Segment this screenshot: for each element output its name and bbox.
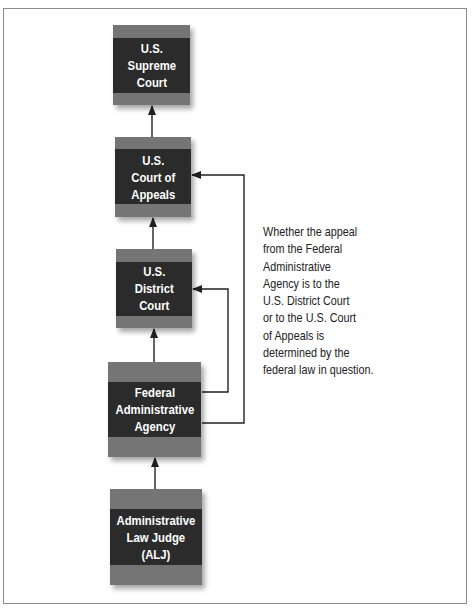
box-supreme-court: U.S. Supreme Court	[113, 25, 190, 105]
box-administrative-law-judge: Administrative Law Judge (ALJ)	[110, 489, 202, 585]
connector-lines	[0, 0, 472, 610]
box-label: Federal Administrative Agency	[108, 384, 202, 435]
box-court-of-appeals: U.S. Court of Appeals	[115, 137, 191, 217]
box-label: U.S. Court of Appeals	[127, 152, 180, 203]
box-label: U.S. Supreme Court	[123, 40, 181, 91]
explanatory-note: Whether the appeal from the Federal Admi…	[263, 223, 401, 379]
box-district-court: U.S. District Court	[116, 249, 192, 328]
box-label: U.S. District Court	[131, 263, 178, 314]
box-federal-administrative-agency: Federal Administrative Agency	[108, 362, 201, 457]
box-label: Administrative Law Judge (ALJ)	[109, 512, 203, 563]
